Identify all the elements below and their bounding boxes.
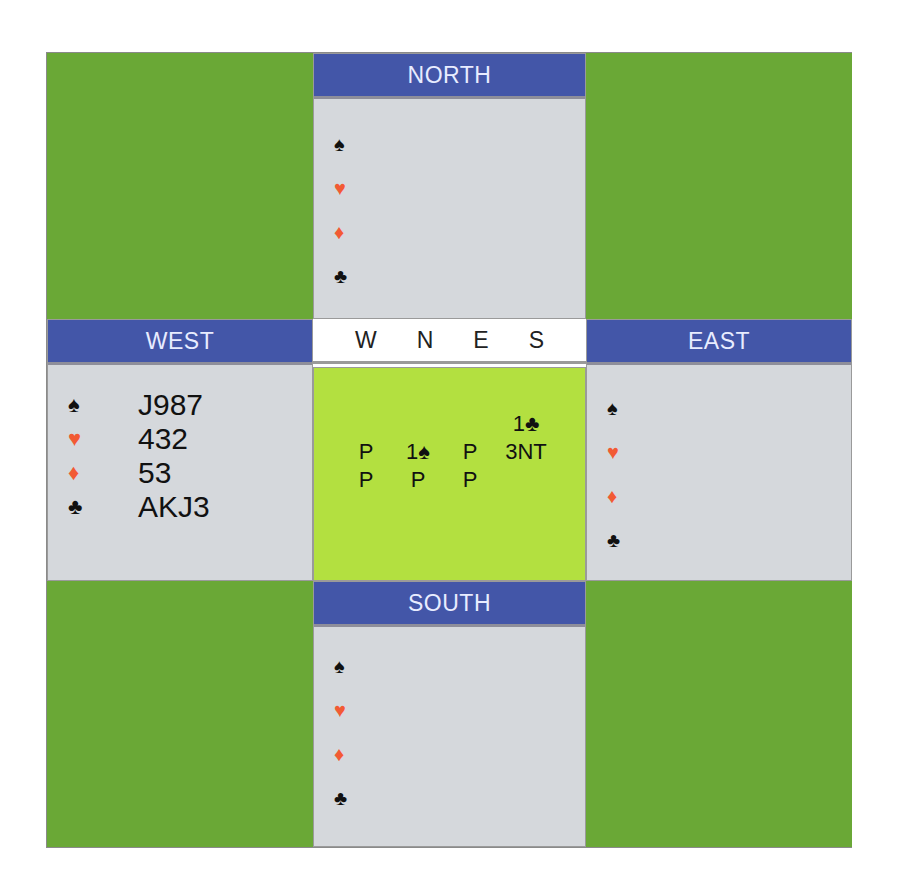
west-header: WEST — [48, 320, 312, 365]
auction-header: W N E S — [313, 319, 586, 364]
bid: P — [444, 438, 496, 466]
heart-icon: ♥ — [64, 426, 138, 452]
bid: P — [340, 438, 392, 466]
west-hearts-row: ♥432 — [64, 422, 210, 456]
west-diamonds: 53 — [138, 456, 171, 490]
west-spades: J987 — [138, 388, 203, 422]
bid: P — [392, 466, 444, 494]
club-icon: ♣ — [334, 254, 347, 298]
west-clubs-row: ♣AKJ3 — [64, 490, 210, 524]
bid — [340, 410, 392, 438]
diamond-icon: ♦ — [64, 460, 138, 486]
auction-header-n: N — [417, 319, 434, 361]
auction-header-w: W — [355, 319, 377, 361]
bidding-grid: 1♣ P 1♠ P 3NT P P P — [340, 410, 556, 494]
west-clubs: AKJ3 — [138, 490, 210, 524]
auction-panel: W N E S 1♣ P 1♠ P 3NT P P P — [313, 319, 586, 581]
auction-header-e: E — [473, 319, 488, 361]
diamond-icon: ♦ — [607, 474, 620, 518]
bid: 3NT — [496, 438, 556, 466]
spade-icon: ♠ — [334, 644, 347, 688]
bridge-diagram: NORTH ♠ ♥ ♦ ♣ WEST ♠J987 ♥432 ♦53 ♣AKJ3 … — [46, 52, 852, 848]
auction-box: 1♣ P 1♠ P 3NT P P P — [313, 367, 586, 581]
east-header: EAST — [587, 320, 851, 365]
south-suits: ♠ ♥ ♦ ♣ — [334, 644, 347, 820]
bid: P — [444, 466, 496, 494]
heart-icon: ♥ — [334, 688, 347, 732]
bid: P — [340, 466, 392, 494]
corner-se — [586, 581, 852, 847]
diamond-icon: ♦ — [334, 210, 347, 254]
west-panel: WEST ♠J987 ♥432 ♦53 ♣AKJ3 — [47, 319, 313, 581]
corner-sw — [47, 581, 313, 847]
north-suits: ♠ ♥ ♦ ♣ — [334, 122, 347, 298]
west-hearts: 432 — [138, 422, 188, 456]
diamond-icon: ♦ — [334, 732, 347, 776]
club-icon: ♣ — [607, 518, 620, 562]
south-header: SOUTH — [314, 582, 585, 627]
west-diamonds-row: ♦53 — [64, 456, 210, 490]
auction-header-s: S — [529, 319, 544, 361]
bid — [444, 410, 496, 438]
heart-icon: ♥ — [607, 430, 620, 474]
bid: 1♣ — [496, 410, 556, 438]
bid — [392, 410, 444, 438]
corner-nw — [47, 53, 313, 319]
north-panel: NORTH ♠ ♥ ♦ ♣ — [313, 53, 586, 319]
south-panel: SOUTH ♠ ♥ ♦ ♣ — [313, 581, 586, 847]
bid: 1♠ — [392, 438, 444, 466]
west-hand: ♠J987 ♥432 ♦53 ♣AKJ3 — [64, 388, 210, 524]
spade-icon: ♠ — [64, 392, 138, 418]
club-icon: ♣ — [64, 494, 138, 520]
heart-icon: ♥ — [334, 166, 347, 210]
corner-ne — [586, 53, 852, 319]
spade-icon: ♠ — [607, 386, 620, 430]
east-suits: ♠ ♥ ♦ ♣ — [607, 386, 620, 562]
bid — [496, 466, 556, 494]
club-icon: ♣ — [334, 776, 347, 820]
east-panel: EAST ♠ ♥ ♦ ♣ — [586, 319, 852, 581]
spade-icon: ♠ — [334, 122, 347, 166]
north-header: NORTH — [314, 54, 585, 99]
west-spades-row: ♠J987 — [64, 388, 210, 422]
